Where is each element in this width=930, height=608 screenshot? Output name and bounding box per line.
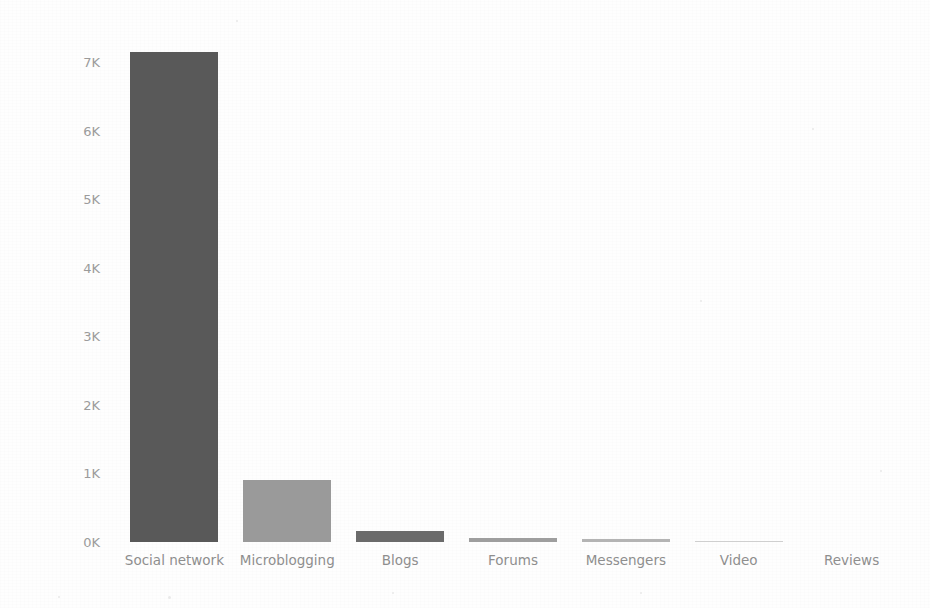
y-axis-tick-label: 0K [60, 535, 100, 550]
scan-speck [168, 596, 171, 599]
scan-speck [812, 128, 814, 130]
bar-slot [808, 28, 896, 542]
bar-slot [469, 28, 557, 542]
y-axis-tick-label: 7K [60, 55, 100, 70]
y-axis-tick-label: 3K [60, 329, 100, 344]
bar-chart-figure: Number of Records 0K1K2K3K4K5K6K7K Socia… [0, 0, 930, 608]
x-axis-tick-label: Blogs [382, 552, 419, 568]
bar-social-network[interactable] [130, 52, 218, 542]
x-axis-tick-labels: Social networkMicrobloggingBlogsForumsMe… [118, 552, 908, 582]
scan-speck [700, 300, 702, 302]
plot-area: 0K1K2K3K4K5K6K7K [118, 28, 908, 542]
x-axis-tick-label: Social network [125, 552, 224, 568]
y-axis-tick-label: 5K [60, 192, 100, 207]
y-axis-tick-label: 2K [60, 397, 100, 412]
x-axis-tick-label: Forums [488, 552, 538, 568]
x-axis-tick-label: Microblogging [240, 552, 335, 568]
bar-slot [695, 28, 783, 542]
y-axis-tick-label: 4K [60, 260, 100, 275]
bar-messengers[interactable] [582, 539, 670, 542]
x-axis-tick-label: Video [720, 552, 758, 568]
x-axis-tick-label: Reviews [824, 552, 879, 568]
scan-speck [392, 592, 394, 594]
y-axis-tick-label: 6K [60, 123, 100, 138]
scan-speck [640, 592, 642, 594]
y-axis-tick-label: 1K [60, 466, 100, 481]
scan-speck [58, 596, 60, 598]
bar-slot [243, 28, 331, 542]
scan-speck [880, 470, 882, 472]
bar-video[interactable] [695, 541, 783, 542]
bar-blogs[interactable] [356, 531, 444, 542]
bar-series [118, 28, 908, 542]
bar-slot [582, 28, 670, 542]
bar-forums[interactable] [469, 538, 557, 542]
scan-speck [236, 20, 238, 22]
bar-slot [130, 28, 218, 542]
x-axis-tick-label: Messengers [586, 552, 666, 568]
bar-slot [356, 28, 444, 542]
bar-microblogging[interactable] [243, 480, 331, 542]
